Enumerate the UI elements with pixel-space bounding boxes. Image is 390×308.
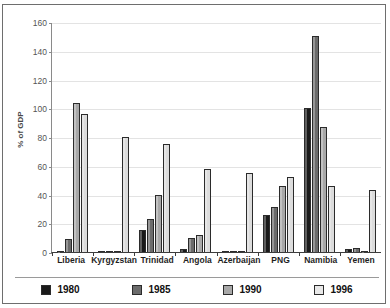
bar xyxy=(222,251,229,252)
bar xyxy=(65,239,72,252)
bar xyxy=(369,190,376,252)
bar xyxy=(353,248,360,252)
legend-swatch xyxy=(41,285,51,295)
bar-group xyxy=(217,23,258,252)
y-tick-label: 100 xyxy=(33,104,47,114)
legend-item[interactable]: 1985 xyxy=(132,284,170,295)
x-axis-label: PNG xyxy=(260,255,300,265)
bar xyxy=(279,186,286,252)
bar xyxy=(312,36,319,252)
y-tick-label: 80 xyxy=(38,133,47,143)
legend-label: 1980 xyxy=(57,284,79,295)
x-axis-label: Kyrgyzstan xyxy=(91,255,137,265)
legend-swatch xyxy=(132,285,142,295)
bar xyxy=(139,230,146,252)
bar xyxy=(271,207,278,252)
bar xyxy=(106,251,113,252)
bar xyxy=(180,249,187,252)
bar xyxy=(188,238,195,252)
bar-group xyxy=(52,23,93,252)
bar-group xyxy=(340,23,381,252)
bar xyxy=(320,127,327,252)
bar xyxy=(238,251,245,252)
bar xyxy=(345,249,352,252)
y-tick-label: 60 xyxy=(38,162,47,172)
legend-label: 1990 xyxy=(239,284,261,295)
bar xyxy=(287,177,294,252)
bar-group xyxy=(134,23,175,252)
bar-group xyxy=(299,23,340,252)
bar xyxy=(246,173,253,252)
bar-groups xyxy=(52,23,381,252)
bar xyxy=(204,169,211,252)
x-axis-label: Liberia xyxy=(51,255,91,265)
bar xyxy=(361,251,368,252)
bar xyxy=(114,251,121,252)
legend-swatch xyxy=(223,285,233,295)
bar-group xyxy=(93,23,134,252)
legend-item[interactable]: 1996 xyxy=(314,284,352,295)
legend-label: 1985 xyxy=(148,284,170,295)
x-axis-label: Namibia xyxy=(301,255,341,265)
bar xyxy=(263,215,270,252)
x-axis-label: Azerbaijan xyxy=(217,255,260,265)
legend-item[interactable]: 1990 xyxy=(223,284,261,295)
bar-group xyxy=(258,23,299,252)
bar xyxy=(163,144,170,252)
y-tick-label: 40 xyxy=(38,191,47,201)
chart-legend: 1980198519901996 xyxy=(15,277,379,301)
bar xyxy=(196,235,203,252)
x-axis-label: Trinidad xyxy=(137,255,177,265)
bar xyxy=(73,103,80,253)
y-axis-title: % of GDP xyxy=(16,85,25,175)
chart-frame: % of GDP 020406080100120140160 LiberiaKy… xyxy=(2,4,386,304)
y-tick-label: 160 xyxy=(33,18,47,28)
legend-swatch xyxy=(314,285,324,295)
bar-group xyxy=(175,23,216,252)
plot-area: 020406080100120140160 xyxy=(51,23,381,253)
bar xyxy=(155,195,162,253)
bar xyxy=(81,114,88,252)
legend-item[interactable]: 1980 xyxy=(41,284,79,295)
bar xyxy=(304,108,311,252)
x-axis-label: Angola xyxy=(177,255,217,265)
x-axis-labels: LiberiaKyrgyzstanTrinidadAngolaAzerbaija… xyxy=(51,255,381,265)
bar xyxy=(98,251,105,252)
bar xyxy=(57,251,64,252)
bar xyxy=(230,251,237,252)
bar xyxy=(147,219,154,252)
x-axis-label: Yemen xyxy=(341,255,381,265)
y-tick-label: 20 xyxy=(38,219,47,229)
chart-figure: % of GDP 020406080100120140160 LiberiaKy… xyxy=(0,0,390,308)
legend-label: 1996 xyxy=(330,284,352,295)
bar xyxy=(122,137,129,252)
y-tick-label: 140 xyxy=(33,47,47,57)
bar xyxy=(328,186,335,252)
y-tick-label: 120 xyxy=(33,76,47,86)
y-tick-label: 0 xyxy=(42,248,47,258)
